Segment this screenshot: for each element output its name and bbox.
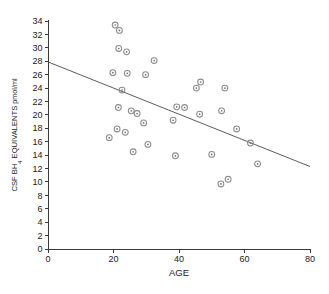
x-tick-label: 20 [108,254,118,264]
data-point-marker [209,152,215,158]
data-point-marker [198,79,204,85]
data-point-marker [219,108,225,114]
marker-center-dot [250,142,252,144]
data-point-marker [112,22,118,28]
marker-center-dot [184,107,186,109]
marker-center-dot [143,122,145,124]
x-tick-label: 40 [174,254,184,264]
data-point-marker [106,135,112,141]
data-point-marker [141,120,147,126]
tick-labels: 0246810121416182022242628303234020406080 [32,16,315,264]
y-tick-label: 20 [32,110,42,120]
marker-center-dot [116,128,118,130]
data-point-marker [174,104,180,110]
data-point-marker [119,87,125,93]
data-point-marker [124,49,130,55]
y-tick-label: 24 [32,83,42,93]
data-point-marker [116,46,122,52]
marker-center-dot [176,106,178,108]
y-axis-title-prefix: CSF BH [10,164,19,192]
y-tick-label: 16 [32,137,42,147]
data-point-marker [170,117,176,123]
plot-canvas: 0246810121416182022242628303234020406080… [0,0,329,294]
data-point-marker [128,108,134,114]
data-point-marker [197,111,203,117]
data-point-marker [130,149,136,155]
data-point-marker [222,85,228,91]
marker-center-dot [126,51,128,53]
y-axis-title-unit: pmol/ml [10,78,19,104]
data-point-marker [193,85,199,91]
marker-center-dot [119,30,121,32]
y-tick-label: 14 [32,150,42,160]
y-tick-label: 6 [37,204,42,214]
data-point-marker [182,105,188,111]
data-point-marker [143,72,149,78]
marker-center-dot [224,87,226,89]
data-point-marker [145,141,151,147]
marker-center-dot [175,155,177,157]
y-tick-label: 8 [37,191,42,201]
marker-center-dot [145,74,147,76]
marker-center-dot [172,119,174,121]
x-tick-label: 80 [305,254,315,264]
x-tick-label: 60 [239,254,249,264]
marker-center-dot [153,60,155,62]
data-point-marker [234,126,240,132]
y-tick-label: 4 [37,217,42,227]
y-tick-label: 26 [32,70,42,80]
marker-center-dot [200,81,202,83]
data-point-marker [124,70,130,76]
y-tick-label: 30 [32,43,42,53]
scatter-plot-figure: 0246810121416182022242628303234020406080… [0,0,329,294]
marker-center-dot [121,89,123,91]
marker-center-dot [114,24,116,26]
data-point-marker [255,161,261,167]
marker-center-dot [220,183,222,185]
marker-center-dot [112,72,114,74]
marker-center-dot [136,113,138,115]
y-tick-label: 10 [32,177,42,187]
data-point-marker [151,58,157,64]
data-point-marker [172,153,178,159]
marker-center-dot [147,144,149,146]
data-point-marker [225,176,231,182]
tick-marks [45,21,311,253]
marker-center-dot [126,72,128,74]
marker-center-dot [118,107,120,109]
marker-center-dot [108,137,110,139]
y-tick-label: 0 [37,244,42,254]
data-point-marker [110,70,116,76]
data-point-marker [134,111,140,117]
marker-center-dot [227,178,229,180]
y-tick-label: 32 [32,30,42,40]
y-tick-label: 28 [32,56,42,66]
marker-center-dot [132,151,134,153]
marker-center-dot [211,154,213,156]
marker-center-dot [236,128,238,130]
axes [48,20,311,249]
data-point-marker [116,105,122,111]
fit-line [48,62,310,167]
marker-center-dot [118,48,120,50]
marker-center-dot [124,131,126,133]
marker-center-dot [196,87,198,89]
data-point-marker [218,181,224,187]
y-axis-title-middle: EQUIVALENTS [10,104,19,161]
data-points [106,22,260,187]
x-axis-title: AGE [169,267,189,278]
data-point-marker [122,129,128,135]
marker-center-dot [221,110,223,112]
y-tick-label: 18 [32,123,42,133]
marker-center-dot [199,113,201,115]
y-axis-title: CSF BH4 EQUIVALENTS pmol/ml [10,78,23,191]
marker-center-dot [257,163,259,165]
y-tick-label: 12 [32,164,42,174]
marker-center-dot [130,110,132,112]
regression-line [48,62,310,167]
y-tick-label: 22 [32,97,42,107]
y-tick-label: 34 [32,16,42,26]
y-tick-label: 2 [37,231,42,241]
x-tick-label: 0 [45,254,50,264]
data-point-marker [116,27,122,33]
